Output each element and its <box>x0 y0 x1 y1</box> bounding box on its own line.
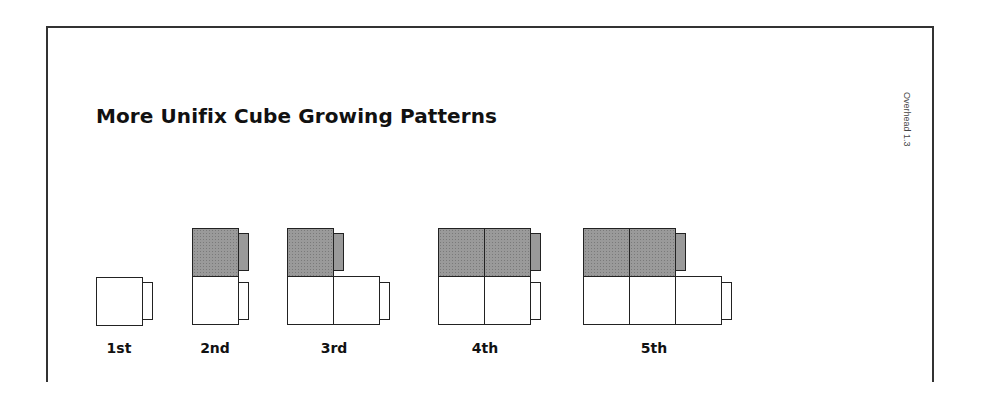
pattern-label: 2nd <box>185 340 245 356</box>
shaded-cube <box>438 228 485 277</box>
pattern-label: 4th <box>455 340 515 356</box>
pattern-label: 3rd <box>304 340 364 356</box>
white-cube <box>675 276 722 325</box>
white-cube <box>438 276 485 325</box>
cube-nub <box>142 282 153 320</box>
white-cube <box>583 276 630 325</box>
page-title: More Unifix Cube Growing Patterns <box>96 104 497 128</box>
shaded-cube <box>192 228 239 277</box>
cube-nub <box>675 233 686 271</box>
white-cube <box>333 276 380 325</box>
white-cube <box>96 277 143 326</box>
white-cube <box>192 276 239 325</box>
overhead-label: Overhead 1.3 <box>902 92 912 147</box>
cube-nub <box>238 282 249 320</box>
white-cube <box>629 276 676 325</box>
cube-nub <box>530 282 541 320</box>
white-cube <box>484 276 531 325</box>
cube-nub <box>530 233 541 271</box>
shaded-cube <box>287 228 334 277</box>
shaded-cube <box>629 228 676 277</box>
pattern-label: 1st <box>89 340 149 356</box>
shaded-cube <box>583 228 630 277</box>
cube-nub <box>333 233 344 271</box>
cube-nub <box>721 282 732 320</box>
white-cube <box>287 276 334 325</box>
pattern-label: 5th <box>624 340 684 356</box>
shaded-cube <box>484 228 531 277</box>
cube-nub <box>379 282 390 320</box>
cube-nub <box>238 233 249 271</box>
page-frame <box>46 26 934 382</box>
